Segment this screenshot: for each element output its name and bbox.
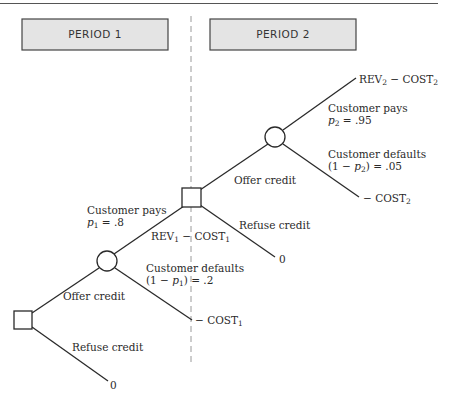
chance-node-2: [265, 127, 285, 147]
label-rev1-cost1: REV1 − COST1: [151, 230, 230, 244]
label-customer-defaults-1: Customer defaults: [146, 262, 244, 274]
decision-node-1: [14, 311, 32, 329]
label-refuse-credit-1: Refuse credit: [72, 341, 144, 353]
outcome-default-1: − COST1: [195, 314, 243, 328]
label-p2: p2 = .95: [328, 114, 372, 128]
diagram-canvas: PERIOD 1 PERIOD 2 Offer credit Refuse cr…: [0, 0, 454, 396]
cost1-text: − COST: [179, 230, 225, 242]
rev1-text: REV: [151, 230, 175, 242]
default2-subscript: 2: [406, 197, 411, 206]
outcome-default-2: − COST2: [363, 192, 411, 206]
one-minus-p2-value: ) = .05: [366, 160, 402, 172]
outcome-refuse-2: 0: [279, 253, 286, 265]
branch-refuse-credit-1: [32, 327, 108, 381]
label-customer-pays-1: Customer pays: [87, 204, 167, 216]
label-refuse-credit-2: Refuse credit: [239, 219, 311, 231]
period2-label: PERIOD 2: [256, 28, 310, 40]
cost2-text: − COST: [387, 73, 433, 85]
decision-node-2: [182, 188, 201, 207]
one-minus-p2-prefix: (1 −: [328, 160, 354, 172]
outcome-refuse-1: 0: [110, 379, 117, 391]
p2-value: = .95: [340, 114, 372, 126]
label-offer-credit-2: Offer credit: [234, 174, 297, 186]
label-one-minus-p1: (1 − p1) = .2: [146, 274, 213, 288]
one-minus-p1-value: ) = .2: [184, 274, 214, 286]
label-customer-pays-2: Customer pays: [328, 102, 408, 114]
outcome-rev2-cost2: REV2 − COST2: [359, 73, 438, 87]
p1-value: = .8: [99, 216, 125, 228]
cost1-subscript: 1: [225, 235, 230, 244]
label-one-minus-p2: (1 − p2) = .05: [328, 160, 402, 174]
cost2-subscript: 2: [433, 78, 438, 87]
label-p1: p1 = .8: [87, 216, 124, 230]
chance-node-1: [97, 251, 117, 271]
period1-label: PERIOD 1: [68, 28, 122, 40]
label-customer-defaults-2: Customer defaults: [328, 148, 426, 160]
rev2-text: REV: [359, 73, 383, 85]
one-minus-p1-prefix: (1 −: [146, 274, 172, 286]
label-offer-credit-1: Offer credit: [63, 290, 126, 302]
decision-tree-diagram: PERIOD 1 PERIOD 2 Offer credit Refuse cr…: [0, 0, 454, 396]
default1-subscript: 1: [238, 319, 243, 328]
default1-text: − COST: [195, 314, 238, 326]
default2-text: − COST: [363, 192, 406, 204]
